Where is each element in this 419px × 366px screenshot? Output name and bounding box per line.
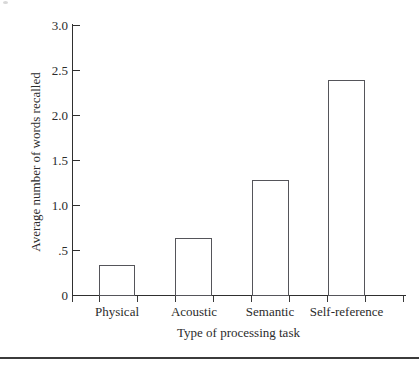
- y-axis-tick-label: 3.0: [0, 19, 68, 32]
- x-axis-tick-mark: [365, 296, 366, 302]
- x-axis-tick-mark: [251, 296, 252, 302]
- y-axis-tick-mark: [73, 160, 80, 161]
- y-axis-tick-mark: [73, 115, 80, 116]
- y-axis-tick-mark: [73, 250, 80, 251]
- x-axis-tick-mark: [289, 296, 290, 302]
- x-axis-tick-mark: [403, 296, 404, 302]
- y-axis-tick-mark: [73, 295, 80, 296]
- y-axis-tick-label: 1.5: [0, 154, 68, 167]
- x-axis-tick-mark: [137, 296, 138, 302]
- x-axis-title: Type of processing task: [72, 325, 405, 341]
- y-axis-tick-label: 2.0: [0, 109, 68, 122]
- category-label-self-reference: Self-reference: [300, 304, 393, 319]
- category-label-acoustic: Acoustic: [157, 304, 231, 319]
- x-axis-tick-mark: [72, 296, 73, 302]
- category-label-semantic: Semantic: [233, 304, 307, 319]
- bottom-divider-rule: [0, 357, 419, 359]
- y-axis-tick-label: .5: [0, 244, 68, 257]
- bar-chart-figure: Average number of words recalled 3.02.52…: [0, 0, 419, 366]
- y-axis-tick-mark: [73, 70, 80, 71]
- bar-semantic: [252, 180, 289, 296]
- y-axis-tick-mark: [73, 25, 80, 26]
- x-axis-tick-mark: [175, 296, 176, 302]
- bar-physical: [99, 265, 135, 296]
- y-axis-tick-label: 1.0: [0, 199, 68, 212]
- bar-self-reference: [328, 80, 365, 296]
- bar-acoustic: [175, 238, 212, 296]
- category-label-physical: Physical: [80, 304, 154, 319]
- page-artifact-speck: [3, 1, 8, 4]
- y-axis-tick-mark: [73, 205, 80, 206]
- x-axis-tick-mark: [99, 296, 100, 302]
- x-axis-tick-mark: [213, 296, 214, 302]
- x-axis-tick-mark: [327, 296, 328, 302]
- y-axis-tick-label: 2.5: [0, 64, 68, 77]
- y-axis-tick-label: 0: [0, 289, 68, 302]
